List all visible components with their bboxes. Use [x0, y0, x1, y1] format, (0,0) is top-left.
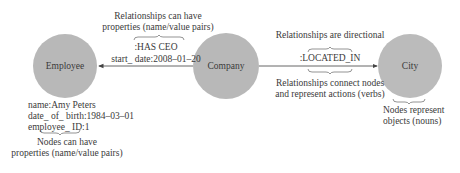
- employee-prop-name: name:Amy Peters: [28, 100, 134, 111]
- brace-city: [393, 99, 425, 104]
- rel-connect-line2: and represent actions (verbs): [266, 89, 394, 100]
- employee-prop-dob: date_ of_ birth:1984–03–01: [28, 111, 134, 122]
- employee-label: Employee: [33, 61, 97, 72]
- rel-properties-note: Relationships can have properties (name/…: [96, 11, 220, 33]
- brace-located-in-bottom: [308, 69, 352, 74]
- nodes-represent-note: Nodes represent objects (nouns): [383, 105, 444, 127]
- rel-connect-line1: Relationships connect nodes: [266, 78, 394, 89]
- node-properties-note: Nodes can have properties (name/value pa…: [8, 137, 126, 159]
- rel-connect-note: Relationships connect nodes and represen…: [266, 78, 394, 100]
- employee-properties: name:Amy Peters date_ of_ birth:1984–03–…: [28, 100, 134, 133]
- employee-prop-id: employee_ ID:1: [28, 122, 134, 133]
- rel-directional-note: Relationships are directional: [270, 30, 390, 41]
- rel-properties-line1: Relationships can have: [96, 11, 220, 22]
- located-in-type: :LOCATED_IN: [290, 53, 370, 64]
- brace-located-in-top: [308, 47, 352, 52]
- nodes-represent-line1: Nodes represent: [383, 105, 444, 116]
- node-props-line2: properties (name/value pairs): [8, 148, 126, 159]
- nodes-represent-line2: objects (nouns): [383, 116, 444, 127]
- has-ceo-property: start_ date:2008–01–20: [104, 54, 208, 65]
- brace-has-ceo: [134, 35, 184, 40]
- rel-properties-line2: properties (name/value pairs): [96, 22, 220, 33]
- node-props-line1: Nodes can have: [8, 137, 126, 148]
- has-ceo-type: :HAS CEO: [116, 42, 196, 53]
- city-label: City: [378, 61, 442, 72]
